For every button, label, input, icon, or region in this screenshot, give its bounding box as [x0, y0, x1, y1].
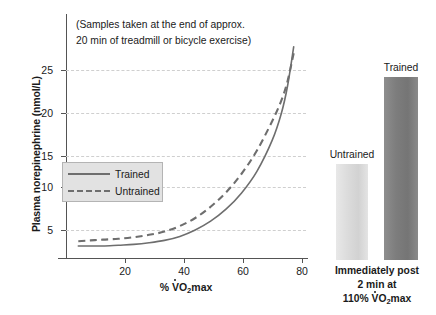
legend-label-trained: Trained [115, 169, 150, 180]
plot-area: 25 20 15 10 5 [66, 14, 306, 258]
x-tick-mark-20 [125, 258, 126, 263]
x-tick-mark-80 [302, 258, 303, 263]
legend-swatch-solid-line [68, 169, 110, 179]
legend-swatch-dashed-line [68, 186, 110, 196]
y-tick-label-10: 10 [41, 181, 53, 193]
x-axis-title: % VO2max [66, 281, 306, 295]
x-axis-line [58, 258, 308, 259]
bar-caption-suffix: max [391, 293, 412, 304]
legend-item-untrained: Untrained [68, 183, 160, 199]
bar-untrained [336, 164, 368, 260]
bar-caption-line-2: 2 min at [318, 278, 436, 292]
x-tick-label-60: 60 [237, 265, 249, 277]
annotation-line-2: 20 min of treadmill or bicycle exercise) [76, 33, 251, 49]
bar-caption-prefix: 110% [343, 293, 372, 304]
y-axis-title: Plasma norepinephrine (nmol/L) [30, 44, 42, 264]
x-tick-mark-40 [184, 258, 185, 263]
bar-caption-line-3: 110% VO2max [318, 292, 436, 309]
y-tick-label-5: 5 [47, 224, 53, 236]
bar-label-trained: Trained [373, 62, 429, 73]
x-tick-mark-60 [243, 258, 244, 263]
annotation-line-1: (Samples taken at the end of approx. [76, 17, 251, 33]
bar-caption-v: V [372, 293, 379, 304]
y-tick-label-20: 20 [41, 107, 53, 119]
legend-label-untrained: Untrained [115, 186, 160, 197]
x-tick-label-40: 40 [178, 265, 190, 277]
x-axis-title-v: V [172, 281, 179, 293]
x-axis-title-prefix: % [160, 281, 172, 293]
bar-panel-caption: Immediately post 2 min at 110% VO2max [318, 264, 436, 309]
y-tick-label-25: 25 [41, 64, 53, 76]
bar-panel: Untrained Trained Immediately post 2 min… [318, 0, 436, 315]
y-tick-label-15: 15 [41, 150, 53, 162]
curve-untrained [78, 53, 293, 241]
x-tick-label-80: 80 [296, 265, 308, 277]
figure-norepinephrine-vs-vo2max: Plasma norepinephrine (nmol/L) 25 20 15 … [0, 0, 436, 315]
annotation-note: (Samples taken at the end of approx. 20 … [76, 17, 251, 48]
legend-item-trained: Trained [68, 166, 150, 182]
bar-label-untrained: Untrained [320, 149, 384, 160]
x-tick-label-20: 20 [119, 265, 131, 277]
bar-caption-line-1: Immediately post [318, 264, 436, 278]
x-axis-title-o: O [179, 281, 187, 293]
curve-trained [78, 47, 293, 246]
bar-trained [384, 77, 418, 260]
series-curves [66, 14, 306, 258]
legend: Trained Untrained [62, 162, 163, 202]
x-axis-title-suffix: max [191, 281, 212, 293]
